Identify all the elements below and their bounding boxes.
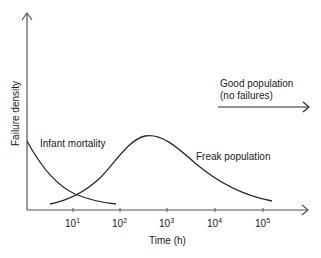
good-population-arrow xyxy=(218,102,309,112)
x-tick-label-3: 103 xyxy=(159,217,174,229)
y-axis xyxy=(22,13,32,210)
freak-population-label: Freak population xyxy=(196,151,271,162)
x-tick-label-2: 102 xyxy=(112,217,127,229)
x-tick-label-4: 104 xyxy=(207,217,222,229)
x-tick-label-5: 105 xyxy=(255,217,270,229)
infant-mortality-curve xyxy=(27,141,116,204)
x-axis-title: Time (h) xyxy=(149,235,186,246)
x-tick-label-1: 101 xyxy=(65,217,80,229)
no-failures-label: (no failures) xyxy=(220,90,273,101)
infant-mortality-label: Infant mortality xyxy=(40,138,106,149)
y-axis-title: Failure density xyxy=(10,81,21,146)
x-axis xyxy=(27,205,308,215)
failure-density-chart: 101 102 103 104 105 Time (h) Failure den… xyxy=(0,0,321,258)
good-population-label: Good population xyxy=(220,78,293,89)
